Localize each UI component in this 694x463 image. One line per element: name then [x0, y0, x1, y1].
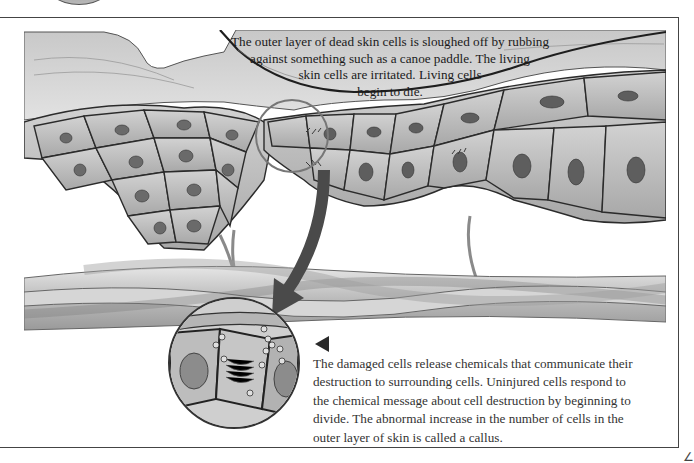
caption-line: the chemical message about cell destruct…	[313, 392, 673, 410]
caption-line: against something such as a canoe paddle…	[230, 51, 550, 68]
magnified-cell-view	[168, 297, 300, 429]
caption-line: outer layer of skin is called a callus.	[313, 429, 673, 447]
caption-line: The outer layer of dead skin cells is sl…	[230, 34, 550, 51]
figure-frame-bottom	[0, 447, 679, 448]
previous-figure-magnifier-fragment	[42, 0, 116, 5]
caption-line: divide. The abnormal increase in the num…	[313, 410, 673, 428]
figure-frame-top	[0, 17, 679, 18]
left-triangle-pointer-icon	[315, 336, 329, 352]
page-corner-mark: ∠	[683, 450, 694, 463]
figure-frame-right	[678, 17, 679, 448]
caption-callus: The damaged cells release chemicals that…	[313, 355, 673, 447]
caption-irritation: The outer layer of dead skin cells is sl…	[230, 34, 550, 100]
blood-vessel-bundle	[24, 264, 666, 330]
caption-line: destruction to surrounding cells. Uninju…	[313, 373, 673, 391]
caption-line: skin cells are irritated. Living cells	[230, 67, 550, 84]
caption-line: The damaged cells release chemicals that…	[313, 355, 673, 373]
caption-line: begin to die.	[230, 84, 550, 101]
epidermal-cell-layer-left	[24, 105, 274, 250]
